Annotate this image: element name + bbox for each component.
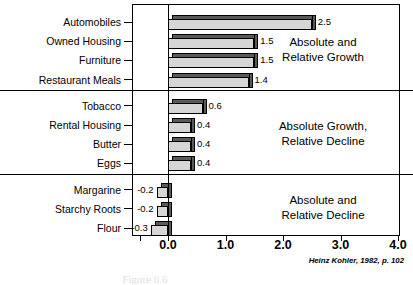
- bar-front-face: [168, 38, 254, 49]
- category-label: Butter: [0, 134, 121, 154]
- x-axis-tick-label: 0.0: [159, 238, 176, 252]
- category-tick-mark: [124, 189, 133, 190]
- bar-value-label: 0.4: [197, 134, 210, 154]
- bar-value-label: -0.2: [134, 199, 154, 219]
- bar: [157, 202, 169, 213]
- category-tick-mark: [124, 41, 133, 42]
- bar: [157, 183, 169, 194]
- bar-value-label: 2.5: [318, 12, 331, 32]
- group-annotation: Absolute andRelative Growth: [248, 35, 398, 64]
- bar: [168, 53, 254, 64]
- bar-end-cap: [168, 221, 172, 236]
- x-axis-tick-labels: 0.01.02.03.04.0: [0, 238, 413, 254]
- bar-front-face: [168, 103, 203, 114]
- x-axis-tick-label: 2.0: [274, 238, 291, 252]
- figure-caption: Figure 6.6: [0, 273, 290, 285]
- group-annotation-line1: Absolute and: [248, 35, 398, 50]
- group-annotation: Absolute Growth,Relative Decline: [248, 119, 398, 148]
- source-attribution: Heinz Kohler, 1982, p. 102: [309, 256, 404, 265]
- category-tick-mark: [124, 163, 133, 164]
- category-label: Starchy Roots: [0, 199, 121, 219]
- bar-end-cap: [168, 202, 172, 217]
- category-tick-mark: [124, 79, 133, 80]
- bar-value-label: 0.4: [197, 153, 210, 173]
- category-tick-mark: [124, 144, 133, 145]
- category-label: Eggs: [0, 153, 121, 173]
- bar-value-label: 0.4: [197, 115, 210, 135]
- group-annotation-line1: Absolute Growth,: [248, 119, 398, 134]
- bar: [168, 118, 191, 129]
- bar-end-cap: [168, 183, 172, 198]
- bar: [151, 221, 168, 232]
- x-axis-tick-label: 3.0: [332, 238, 349, 252]
- category-label: Tobacco: [0, 96, 121, 116]
- bar: [168, 34, 254, 45]
- bar: [168, 73, 249, 84]
- bar: [168, 156, 191, 167]
- bar-end-cap: [312, 15, 316, 30]
- group-annotation-line1: Absolute and: [248, 193, 398, 208]
- x-axis-tick-label: 1.0: [217, 238, 234, 252]
- bar-front-face: [151, 225, 168, 236]
- x-axis-tick-label: 4.0: [389, 238, 406, 252]
- category-label: Margarine: [0, 180, 121, 200]
- bar-value-label: 1.4: [255, 70, 268, 90]
- category-label: Flour: [0, 218, 121, 238]
- category-tick-mark: [124, 208, 133, 209]
- bar-end-cap: [191, 156, 195, 171]
- bar-row: Eggs0.4: [0, 153, 413, 173]
- bar-front-face: [157, 187, 169, 198]
- group-annotation-line2: Relative Growth: [248, 50, 398, 65]
- bar-row: Tobacco0.6: [0, 96, 413, 116]
- category-tick-mark: [124, 125, 133, 126]
- bar-front-face: [168, 19, 312, 30]
- category-tick-mark: [124, 60, 133, 61]
- bar-end-cap: [191, 137, 195, 152]
- bar-front-face: [157, 206, 169, 217]
- bar-value-label: -0.2: [134, 180, 154, 200]
- group-annotation: Absolute andRelative Decline: [248, 193, 398, 222]
- category-label: Owned Housing: [0, 31, 121, 51]
- category-tick-mark: [124, 105, 133, 106]
- bar-end-cap: [191, 118, 195, 133]
- category-label: Automobiles: [0, 12, 121, 32]
- category-label: Restaurant Meals: [0, 70, 121, 90]
- bar: [168, 137, 191, 148]
- bar-front-face: [168, 122, 191, 133]
- bar-front-face: [168, 160, 191, 171]
- bar: [168, 15, 312, 26]
- bar-front-face: [168, 141, 191, 152]
- group-separator: [0, 90, 413, 91]
- group-annotation-line2: Relative Decline: [248, 134, 398, 149]
- bar-front-face: [168, 57, 254, 68]
- group-annotation-line2: Relative Decline: [248, 208, 398, 223]
- category-label: Rental Housing: [0, 115, 121, 135]
- bar-row: Restaurant Meals1.4: [0, 70, 413, 90]
- bar-value-label: -0.3: [128, 218, 148, 238]
- bar-value-label: 0.6: [209, 96, 222, 116]
- group-separator: [0, 174, 413, 175]
- bar-front-face: [168, 77, 249, 88]
- bar-row: Automobiles2.5: [0, 12, 413, 32]
- category-label: Furniture: [0, 50, 121, 70]
- bar-end-cap: [249, 73, 253, 88]
- bar-end-cap: [203, 99, 207, 114]
- bar: [168, 99, 203, 110]
- category-tick-mark: [124, 22, 133, 23]
